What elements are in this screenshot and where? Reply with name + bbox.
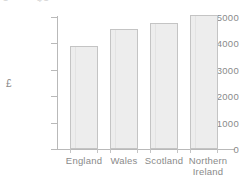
bar-wales[interactable] [110, 29, 138, 149]
x-tick-sep-3 [177, 149, 178, 153]
bar-england[interactable] [70, 46, 98, 149]
bar-northern-ireland[interactable] [190, 15, 218, 149]
bar-chart-figure: 1 Q1 £ 0 1000 2000 3000 4000 5000 Englan… [0, 0, 239, 185]
y-axis-title: £ [6, 78, 12, 89]
bar-scotland[interactable] [150, 23, 178, 149]
x-tick-sep-2 [137, 149, 138, 153]
x-tick-england [70, 149, 71, 153]
plot-area [57, 17, 235, 149]
x-tick-wales [110, 149, 111, 153]
clipped-title-right: Q1 [36, 0, 49, 2]
clipped-title-left: 1 [3, 0, 8, 2]
x-tick-sep-4 [217, 149, 218, 153]
x-tick-sep-1 [97, 149, 98, 153]
clipped-title: 1 Q1 [0, 0, 239, 2]
x-label-northern-ireland: Northern Ireland [180, 155, 236, 177]
x-tick-northern-ireland [190, 149, 191, 153]
y-tick-0 [51, 149, 57, 150]
x-tick-scotland [150, 149, 151, 153]
